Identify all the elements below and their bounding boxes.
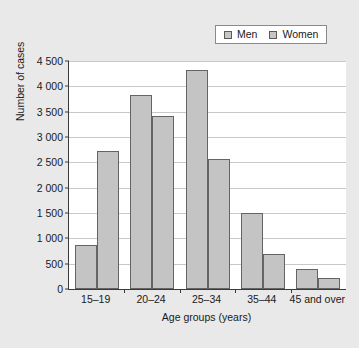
bar-men-1[interactable] xyxy=(130,95,152,289)
bar-group xyxy=(180,61,235,289)
legend-entry-men: Men xyxy=(224,29,257,40)
gridline xyxy=(69,289,346,290)
bar-group xyxy=(235,61,290,289)
x-axis-category-label: 25–34 xyxy=(179,293,234,305)
bar-group xyxy=(124,61,179,289)
legend-label-men: Men xyxy=(237,29,257,40)
x-axis-category-label: 45 and over xyxy=(290,293,345,305)
bar-women-4[interactable] xyxy=(318,278,340,289)
bar-men-2[interactable] xyxy=(186,70,208,289)
bar-group xyxy=(291,61,346,289)
bar-men-3[interactable] xyxy=(241,213,263,289)
bar-groups xyxy=(69,61,346,289)
x-axis-title: Age groups (years) xyxy=(68,311,345,323)
x-axis-category-label: 15–19 xyxy=(68,293,123,305)
bar-chart-figure: Men Women Number of cases 05001 0001 500… xyxy=(0,0,359,348)
y-axis-tick-label: 500 xyxy=(45,259,63,269)
bar-women-3[interactable] xyxy=(263,254,285,289)
y-axis-tick-label: 1 500 xyxy=(37,208,63,218)
y-axis-tick-label: 3 500 xyxy=(37,107,63,117)
y-axis-tick-label: 2 500 xyxy=(37,157,63,167)
y-axis-tick-label: 4 000 xyxy=(37,81,63,91)
y-axis-title-text: Number of cases xyxy=(14,105,26,121)
bar-women-0[interactable] xyxy=(97,151,119,289)
y-axis-title: Number of cases xyxy=(14,89,26,105)
plot-area: 05001 0001 5002 0002 5003 0003 5004 0004… xyxy=(68,61,346,290)
y-axis-tick-label: 2 000 xyxy=(37,183,63,193)
y-axis-tick-label: 3 000 xyxy=(37,132,63,142)
x-axis-category-label: 20–24 xyxy=(123,293,178,305)
bar-women-1[interactable] xyxy=(152,116,174,289)
bar-group xyxy=(69,61,124,289)
legend-swatch-men-icon xyxy=(224,31,232,39)
x-axis-category-labels: 15–1920–2425–3435–4445 and over xyxy=(68,293,345,305)
chart-legend: Men Women xyxy=(215,25,327,44)
legend-swatch-women-icon xyxy=(269,31,277,39)
bar-men-4[interactable] xyxy=(296,269,318,289)
y-axis-tick-label: 0 xyxy=(57,284,63,294)
bar-women-2[interactable] xyxy=(208,159,230,289)
y-axis-tick-label: 1 000 xyxy=(37,233,63,243)
y-axis-tick-label: 4 500 xyxy=(37,56,63,66)
legend-entry-women: Women xyxy=(269,29,318,40)
legend-label-women: Women xyxy=(282,29,318,40)
bar-men-0[interactable] xyxy=(75,245,97,289)
x-axis-category-label: 35–44 xyxy=(234,293,289,305)
